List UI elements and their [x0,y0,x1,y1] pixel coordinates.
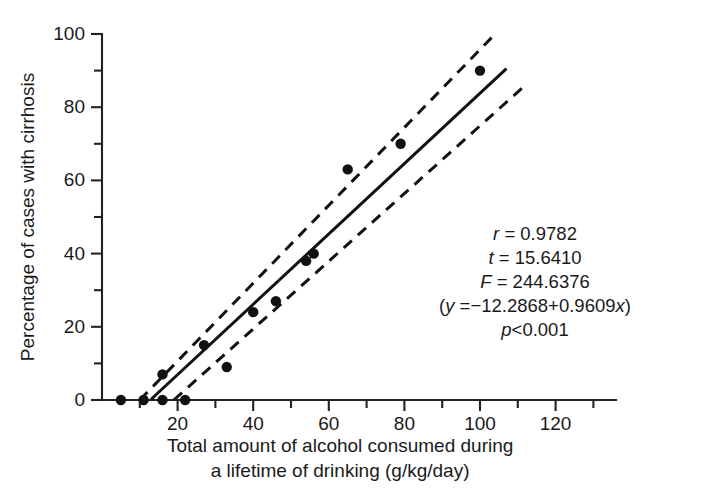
data-point [157,395,167,405]
data-point [157,369,167,379]
data-point [138,395,148,405]
data-point [475,65,485,75]
stat-f: F = 244.6376 [404,270,666,294]
data-point [248,307,258,317]
equation-x-symbol: x [616,295,625,316]
data-point [308,248,318,258]
stat-r-symbol: r [493,223,499,244]
stat-t-value: = 15.6410 [499,247,582,268]
y-tick-label: 0 [74,389,85,410]
x-tick-label: 100 [464,413,496,434]
stat-r-value: = 0.9782 [504,223,577,244]
equation-close-paren: ) [625,295,631,316]
data-point [301,256,311,266]
data-point [199,340,209,350]
stat-t: t = 15.6410 [404,246,666,270]
data-point [343,164,353,174]
data-point [180,395,190,405]
statistics-annotation: r = 0.9782 t = 15.6410 F = 244.6376 (y =… [404,222,666,342]
y-tick-label: 100 [53,23,85,44]
stat-t-symbol: t [488,247,493,268]
x-tick-label: 20 [167,413,188,434]
data-point [271,296,281,306]
y-axis-title: Percentage of cases with cirrhosis [17,73,38,361]
data-point [222,362,232,372]
figure-container: 02040608010020406080100120Percentage of … [0,0,712,503]
x-tick-label: 120 [540,413,572,434]
x-tick-label: 80 [394,413,415,434]
x-axis-title-line2: a lifetime of drinking (g/kg/day) [211,460,470,481]
y-tick-label: 80 [64,96,85,117]
x-axis-title-line1: Total amount of alcohol consumed during [167,435,513,456]
stat-r: r = 0.9782 [404,222,666,246]
equation-body: =−12.2868+0.9609 [454,295,615,316]
y-tick-label: 20 [64,316,85,337]
confidence-band-line [140,34,495,400]
data-point [116,395,126,405]
x-tick-label: 60 [318,413,339,434]
y-tick-label: 60 [64,169,85,190]
stat-p-value: <0.001 [512,319,569,340]
stat-equation: (y =−12.2868+0.9609x) [404,294,666,318]
data-point [395,139,405,149]
stat-p: p<0.001 [404,318,666,342]
x-tick-label: 40 [243,413,264,434]
stat-f-symbol: F [480,271,491,292]
confidence-bands-group [140,34,526,400]
y-tick-label: 40 [64,243,85,264]
stat-f-value: = 244.6376 [497,271,590,292]
stat-p-symbol: p [501,319,511,340]
